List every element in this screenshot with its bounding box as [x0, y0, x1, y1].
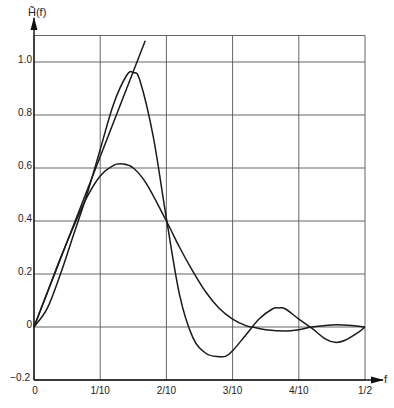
- x-tick-label: 2/10: [146, 385, 186, 396]
- grid-lines: [34, 36, 365, 381]
- x-tick-label: 1/2: [345, 385, 385, 396]
- x-axis-arrow-icon: [371, 377, 384, 384]
- series-curve: [34, 72, 365, 357]
- y-tick-label: 1.0: [4, 54, 32, 65]
- y-tick-label: 0.2: [4, 266, 32, 277]
- x-tick-label: 4/10: [279, 385, 319, 396]
- y-tick-label: 0.4: [4, 213, 32, 224]
- y-tick-label: 0.8: [4, 107, 32, 118]
- y-axis-label: H̃(f): [28, 6, 46, 18]
- series-curve: [34, 164, 365, 331]
- data-curves: [34, 41, 365, 357]
- x-tick-label: 0: [15, 385, 55, 396]
- y-axis-arrow-icon: [31, 17, 38, 30]
- y-tick-label: 0: [4, 319, 32, 330]
- x-axis-label: f: [384, 373, 387, 385]
- y-tick-label: −0.2: [2, 372, 30, 383]
- x-tick-label: 1/10: [80, 385, 120, 396]
- frequency-response-chart: [0, 0, 394, 408]
- x-tick-label: 3/10: [213, 385, 253, 396]
- y-tick-label: 0.6: [4, 160, 32, 171]
